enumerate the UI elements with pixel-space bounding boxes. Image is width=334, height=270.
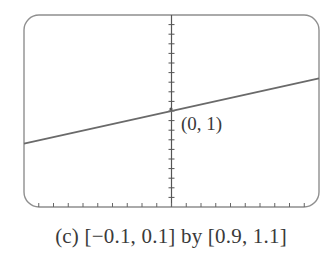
figure-caption: (c) [−0.1, 0.1] by [0.9, 1.1] (0, 224, 334, 249)
calculator-graph-window (0, 0, 334, 220)
point-label: (0, 1) (181, 113, 222, 135)
point-marker (169, 107, 172, 110)
